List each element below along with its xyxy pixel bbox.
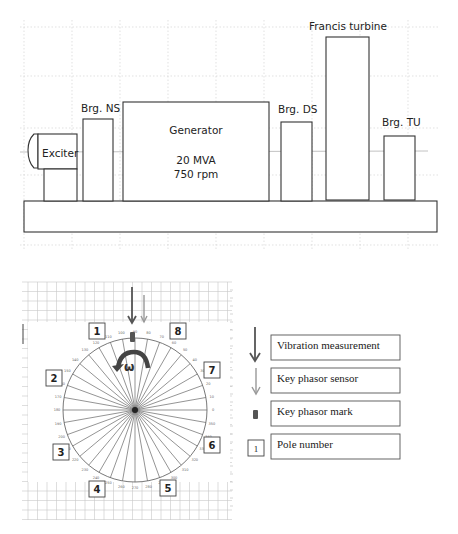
degree-label: 0 (212, 408, 214, 412)
degree-label: 110 (105, 335, 112, 339)
degree-label: 50 (183, 348, 187, 352)
bearing-ns (83, 119, 113, 201)
bearing-ds (281, 122, 312, 201)
legend-label-keyphasor-sensor: Key phasor sensor (277, 372, 359, 384)
francis-turbine-label: Francis turbine (309, 20, 387, 32)
degree-label: 80 (146, 331, 150, 335)
pole-number-3: 3 (58, 447, 65, 458)
generator-rating: 20 MVA (176, 154, 216, 166)
legend-pole-box-number: 1 (254, 444, 259, 454)
generator-speed: 750 rpm (174, 168, 219, 180)
generator-label: Generator (169, 124, 223, 136)
degree-label: 150 (64, 369, 71, 373)
degree-label: 260 (118, 485, 125, 489)
exciter-label: Exciter (42, 147, 79, 159)
degree-label: 170 (55, 395, 62, 399)
degree-label: 200 (58, 435, 65, 439)
pole-number-8: 8 (175, 326, 182, 337)
degree-label: 350 (208, 422, 215, 426)
legend-label-keyphasor-mark: Key phasor mark (277, 405, 353, 417)
degree-label: 140 (72, 358, 79, 362)
pole-number-6: 6 (209, 440, 216, 451)
degree-label: 180 (54, 408, 61, 412)
foundation-base (24, 201, 437, 232)
degree-label: 70 (159, 335, 163, 339)
generator (123, 102, 269, 201)
degree-label: 60 (172, 341, 176, 345)
degree-label: 130 (82, 348, 89, 352)
degree-label: 10 (210, 395, 214, 399)
bearing-ns-label: Brg. NS (81, 102, 121, 114)
omega-symbol: ω (124, 360, 134, 374)
pole-number-2: 2 (51, 373, 58, 384)
degree-label: 100 (118, 331, 125, 335)
machine-layout (24, 37, 437, 232)
exciter-stand (44, 169, 77, 201)
degree-label: 280 (145, 485, 152, 489)
degree-label: 190 (55, 422, 62, 426)
pole-number-5: 5 (165, 483, 172, 494)
legend-label-vibration: Vibration measurement (277, 339, 380, 351)
degree-label: 320 (191, 458, 198, 462)
degree-label: 240 (93, 476, 100, 480)
pole-number-7: 7 (209, 365, 216, 376)
degree-label: 230 (82, 468, 89, 472)
bearing-tu-label: Brg. TU (382, 116, 421, 128)
degree-label: 120 (93, 341, 100, 345)
degree-label: 40 (193, 358, 197, 362)
degree-label: 310 (182, 468, 189, 472)
degree-label: 300 (171, 476, 178, 480)
bearing-tu (384, 136, 415, 200)
key-phasor-mark (130, 332, 135, 342)
degree-label: 270 (132, 486, 139, 490)
francis-turbine (326, 37, 369, 200)
pole-number-4: 4 (94, 484, 101, 495)
figure: Exciter Brg. NS Generator 20 MVA 750 rpm… (0, 0, 458, 534)
rotor-center (132, 407, 138, 413)
exciter-cap (28, 134, 38, 168)
bearing-ds-label: Brg. DS (278, 103, 318, 115)
right-ticks (230, 290, 233, 506)
degree-label: 20 (206, 382, 210, 386)
legend: Vibration measurement Key phasor sensor … (248, 327, 400, 459)
degree-label: 250 (105, 481, 112, 485)
legend-label-pole-number: Pole number (277, 438, 333, 450)
pole-number-1: 1 (94, 326, 101, 337)
legend-keyphasor-mark-icon (253, 410, 258, 419)
degree-label: 220 (72, 458, 79, 462)
